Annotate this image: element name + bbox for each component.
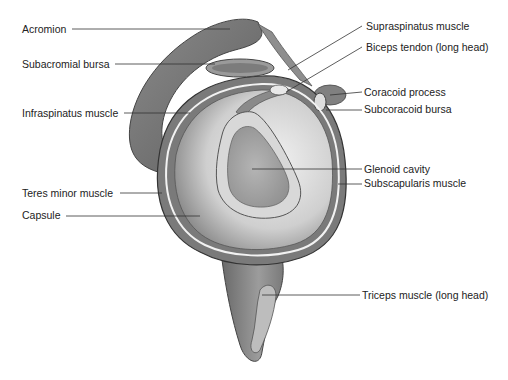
label-biceps-tendon: Biceps tendon (long head) <box>366 41 489 53</box>
label-teres-minor-muscle: Teres minor muscle <box>22 187 113 199</box>
label-coracoid-process: Coracoid process <box>364 86 446 98</box>
biceps-tendon-shape <box>270 85 288 95</box>
anatomy-diagram: Acromion Subacromial bursa Infraspinatus… <box>0 0 508 380</box>
label-triceps-long-head: Triceps muscle (long head) <box>362 289 488 301</box>
label-glenoid-cavity: Glenoid cavity <box>364 163 430 175</box>
label-subcoracoid-bursa: Subcoracoid bursa <box>364 103 452 115</box>
label-subscapularis-muscle: Subscapularis muscle <box>364 177 466 189</box>
label-infraspinatus-muscle: Infraspinatus muscle <box>22 107 118 119</box>
label-acromion: Acromion <box>22 23 66 35</box>
label-capsule: Capsule <box>22 209 61 221</box>
label-subacromial-bursa: Subacromial bursa <box>22 58 110 70</box>
label-supraspinatus-muscle: Supraspinatus muscle <box>366 20 469 32</box>
